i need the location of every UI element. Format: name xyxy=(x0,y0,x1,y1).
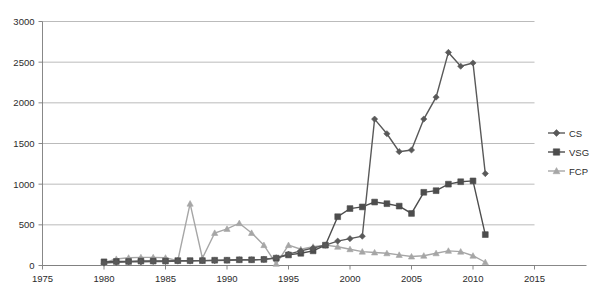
x-tick-label: 2005 xyxy=(401,273,422,284)
data-point-vsg xyxy=(335,214,341,220)
data-point-cs xyxy=(335,238,341,244)
legend-label-cs: CS xyxy=(569,128,582,139)
legend-item-cs[interactable]: CS xyxy=(548,128,582,139)
data-point-fcp xyxy=(236,220,242,226)
x-tick-label: 2000 xyxy=(339,273,360,284)
data-point-vsg xyxy=(396,203,402,209)
data-point-vsg xyxy=(409,211,415,217)
series-line-vsg xyxy=(104,181,485,262)
legend-item-fcp[interactable]: FCP xyxy=(548,166,588,177)
data-point-cs xyxy=(433,94,439,100)
y-tick-label: 1000 xyxy=(13,179,34,190)
data-point-cs xyxy=(482,170,488,176)
data-point-vsg xyxy=(446,181,452,187)
data-point-vsg xyxy=(359,204,365,210)
data-point-vsg xyxy=(433,188,439,194)
series-line-cs xyxy=(104,52,485,263)
data-point-vsg xyxy=(384,201,390,207)
data-point-cs xyxy=(421,116,427,122)
data-point-fcp xyxy=(482,259,488,265)
legend-item-vsg[interactable]: VSG xyxy=(548,147,589,158)
data-point-fcp xyxy=(285,242,291,248)
x-tick-label: 2015 xyxy=(524,273,545,284)
legend-marker-cs xyxy=(553,130,560,137)
data-point-cs xyxy=(359,233,365,239)
y-tick-label: 0 xyxy=(29,260,34,271)
y-tick-label: 2500 xyxy=(13,57,34,68)
data-point-vsg xyxy=(470,178,476,184)
series-fcp xyxy=(101,201,489,267)
series-line-fcp xyxy=(104,204,485,264)
x-tick-label: 2010 xyxy=(462,273,483,284)
series-cs xyxy=(101,49,489,266)
y-tick-label: 3000 xyxy=(13,16,34,27)
x-tick-label: 1985 xyxy=(155,273,176,284)
x-tick-label: 1980 xyxy=(93,273,114,284)
chart-canvas: 0500100015002000250030001975198019851990… xyxy=(0,0,606,298)
data-point-vsg xyxy=(482,232,488,238)
y-tick-label: 500 xyxy=(19,219,35,230)
data-point-vsg xyxy=(421,189,427,195)
x-tick-label: 1975 xyxy=(32,273,53,284)
data-point-cs xyxy=(470,60,476,66)
y-tick-label: 2000 xyxy=(13,97,34,108)
legend-label-fcp: FCP xyxy=(569,166,588,177)
data-point-vsg xyxy=(347,206,353,212)
data-point-fcp xyxy=(187,201,193,207)
x-tick-label: 1990 xyxy=(216,273,237,284)
data-point-cs xyxy=(347,236,353,242)
legend-marker-vsg xyxy=(553,149,559,155)
legend-label-vsg: VSG xyxy=(569,147,589,158)
data-point-vsg xyxy=(372,199,378,205)
data-point-vsg xyxy=(458,179,464,185)
y-tick-label: 1500 xyxy=(13,138,34,149)
x-tick-label: 1995 xyxy=(278,273,299,284)
line-chart: 0500100015002000250030001975198019851990… xyxy=(0,0,606,298)
data-point-cs xyxy=(408,147,414,153)
series-vsg xyxy=(101,178,488,265)
